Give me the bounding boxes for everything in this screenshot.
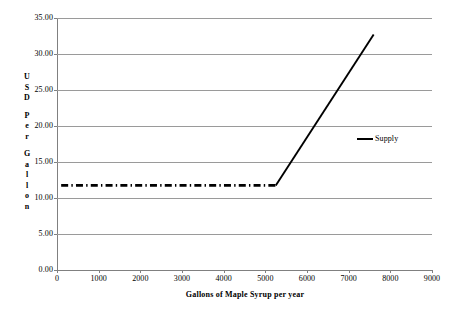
legend-swatch-supply [357, 138, 373, 140]
y-tick-label: 0.00 [39, 266, 53, 274]
plot-area: 0.005.0010.0015.0020.0025.0030.0035.00 0… [57, 18, 432, 270]
y-title-letter: G [20, 149, 34, 160]
x-tick-mark [57, 270, 58, 273]
x-axis-title: Gallons of Maple Syrup per year [57, 290, 433, 299]
y-axis-title: USDPerGallon [20, 72, 34, 212]
x-tick-label: 5000 [257, 274, 273, 283]
x-tick-label: 8000 [382, 274, 398, 283]
x-axis-line [57, 270, 433, 271]
y-tick-label: 35.00 [35, 14, 54, 22]
legend-label-supply: Supply [375, 134, 398, 143]
x-tick-mark [265, 270, 266, 273]
y-title-letter: a [20, 160, 34, 171]
x-tick-label: 6000 [299, 274, 315, 283]
y-tick-label: 10.00 [35, 194, 54, 202]
y-title-letter: l [20, 181, 34, 192]
y-title-letter: U [20, 72, 34, 83]
y-title-letter: P [20, 111, 34, 122]
y-tick-label: 25.00 [35, 86, 54, 94]
x-tick-label: 7000 [340, 274, 356, 283]
supply-rising-segment [276, 35, 374, 186]
x-tick-mark [224, 270, 225, 273]
x-tick-mark [99, 270, 100, 273]
y-title-letter: r [20, 132, 34, 143]
y-tick-label: 15.00 [35, 158, 54, 166]
x-tick-mark [182, 270, 183, 273]
x-tick-mark [140, 270, 141, 273]
x-tick-mark [349, 270, 350, 273]
y-tick-label: 30.00 [35, 50, 54, 58]
x-tick-mark [307, 270, 308, 273]
y-title-letter: o [20, 191, 34, 202]
y-tick-label: 20.00 [35, 122, 54, 130]
x-tick-label: 0 [55, 274, 59, 283]
series-layer [57, 18, 432, 270]
x-tick-label: 9000 [424, 274, 440, 283]
x-tick-label: 3000 [174, 274, 190, 283]
y-title-letter: l [20, 170, 34, 181]
chart-legend: Supply [357, 134, 398, 143]
y-title-gap [20, 104, 34, 111]
y-tick-label: 5.00 [39, 230, 53, 238]
supply-curve-chart: USDPerGallon 0.005.0010.0015.0020.0025.0… [0, 0, 457, 320]
x-tick-label: 4000 [215, 274, 231, 283]
x-tick-mark [390, 270, 391, 273]
y-title-letter: e [20, 121, 34, 132]
y-title-letter: S [20, 83, 34, 94]
y-title-letter: D [20, 93, 34, 104]
x-tick-label: 1000 [90, 274, 106, 283]
x-tick-label: 2000 [132, 274, 148, 283]
y-title-gap [20, 142, 34, 149]
x-tick-mark [432, 270, 433, 273]
y-title-letter: n [20, 202, 34, 213]
